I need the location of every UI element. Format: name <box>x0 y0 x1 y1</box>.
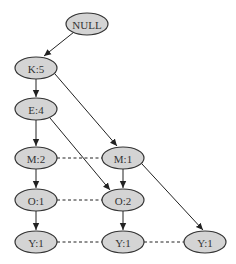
node-o2: O:2 <box>102 189 144 211</box>
node-y1a: Y:1 <box>15 231 57 253</box>
node-label: M:1 <box>114 153 132 165</box>
edge-m1-y1c <box>142 164 203 230</box>
node-y1c: Y:1 <box>184 231 226 253</box>
node-label: M:2 <box>27 153 45 165</box>
node-e4: E:4 <box>15 98 57 120</box>
node-label: Y:1 <box>115 237 131 249</box>
node-label: E:4 <box>28 104 44 116</box>
edge-null-k5 <box>44 32 74 56</box>
node-label: Y:1 <box>28 237 44 249</box>
tree-nodes: NULLK:5E:4M:2M:1O:1O:2Y:1Y:1Y:1 <box>15 13 226 253</box>
node-k5: K:5 <box>15 57 57 79</box>
node-null: NULL <box>66 13 108 35</box>
node-label: NULL <box>72 19 102 31</box>
node-y1b: Y:1 <box>102 231 144 253</box>
node-label: K:5 <box>28 63 45 75</box>
node-o1: O:1 <box>15 189 57 211</box>
node-label: O:1 <box>28 195 45 207</box>
fp-tree-diagram: NULLK:5E:4M:2M:1O:1O:2Y:1Y:1Y:1 <box>0 0 236 264</box>
node-label: O:2 <box>115 195 132 207</box>
node-m2: M:2 <box>15 147 57 169</box>
node-m1: M:1 <box>102 147 144 169</box>
edge-e4-o2 <box>50 118 110 190</box>
node-label: Y:1 <box>197 237 213 249</box>
